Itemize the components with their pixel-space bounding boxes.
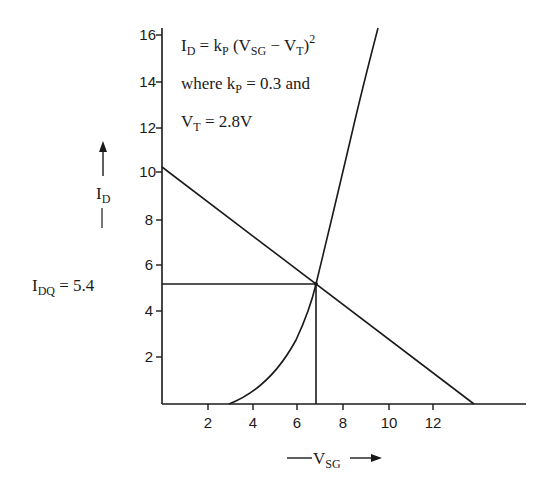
right-arrow-icon: [371, 454, 382, 462]
y-axis-label: ID: [96, 141, 111, 228]
svg-text:4: 4: [145, 302, 153, 319]
svg-text:ID: ID: [96, 184, 111, 206]
equation-line-2: where kP = 0.3 and: [181, 74, 311, 96]
y-tick-labels: 2 4 6 8 10 12 14 16: [139, 26, 156, 365]
idq-label: IDQ = 5.4: [32, 276, 95, 298]
svg-text:6: 6: [145, 256, 153, 273]
y-ticks: [156, 35, 162, 357]
svg-text:10: 10: [139, 163, 156, 180]
svg-text:8: 8: [339, 414, 347, 431]
svg-text:4: 4: [249, 414, 257, 431]
x-ticks: [208, 404, 433, 410]
svg-text:12: 12: [425, 414, 442, 431]
operating-point: [314, 282, 318, 286]
up-arrow-icon: [99, 141, 107, 152]
equation-line-3: VT = 2.8V: [181, 112, 253, 134]
svg-text:12: 12: [139, 119, 156, 136]
svg-text:10: 10: [381, 414, 398, 431]
svg-text:8: 8: [145, 211, 153, 228]
svg-text:VSG: VSG: [313, 449, 341, 471]
equation-line-1: ID = kP (VSG − VT)2: [181, 32, 315, 58]
svg-text:2: 2: [204, 414, 212, 431]
svg-text:14: 14: [139, 73, 156, 90]
svg-text:6: 6: [293, 414, 301, 431]
x-axis-label: VSG: [287, 449, 382, 471]
svg-text:16: 16: [139, 26, 156, 43]
chart: 2 4 6 8 10 12 14 16 2 4 6 8 10 12 ID = k…: [0, 0, 551, 492]
load-line: [162, 167, 474, 404]
x-tick-labels: 2 4 6 8 10 12: [204, 414, 442, 431]
svg-text:2: 2: [145, 348, 153, 365]
